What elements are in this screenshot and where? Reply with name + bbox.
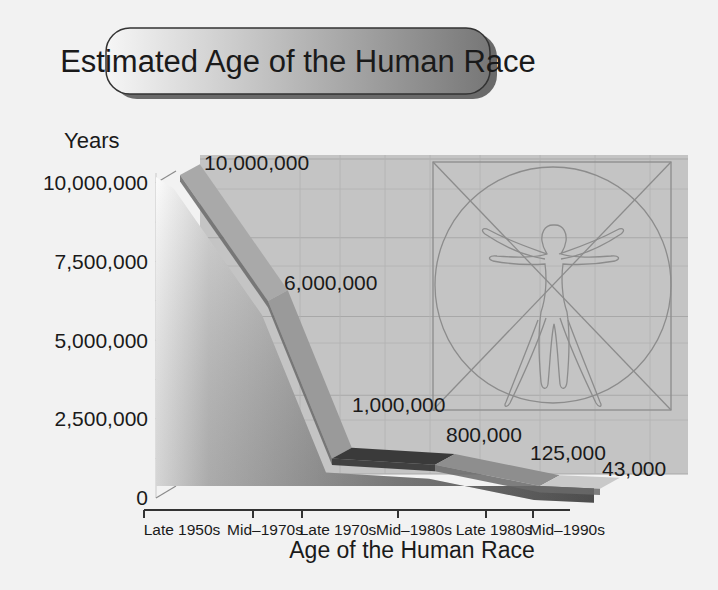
x-axis-label: Age of the Human Race <box>289 537 534 563</box>
y-tick-label: 10,000,000 <box>43 171 148 194</box>
data-label: 6,000,000 <box>284 271 377 294</box>
data-label: 1,000,000 <box>352 393 445 416</box>
chart-title: Estimated Age of the Human Race <box>60 44 536 79</box>
y-tick-label: 5,000,000 <box>55 329 148 352</box>
data-label: 43,000 <box>602 457 666 480</box>
y-axis-label: Years <box>64 128 119 153</box>
y-axis-tick-labels: 02,500,0005,000,0007,500,00010,000,000 <box>43 171 148 509</box>
x-tick-label: Late 1980s <box>456 521 533 538</box>
data-label: 800,000 <box>446 423 522 446</box>
y-tick-label: 7,500,000 <box>55 250 148 273</box>
x-tick-label: Mid–1970s <box>227 521 303 538</box>
y-axis-tick <box>156 486 176 498</box>
chart: Estimated Age of the Human Race Years 02… <box>0 0 718 590</box>
data-label: 125,000 <box>530 441 606 464</box>
x-tick-label: Late 1970s <box>300 521 377 538</box>
x-tick-label: Mid–1990s <box>529 521 605 538</box>
x-axis-ticks <box>144 510 533 518</box>
x-tick-label: Mid–1980s <box>376 521 452 538</box>
x-axis-tick-labels: Late 1950sMid–1970sLate 1970sMid–1980sLa… <box>144 521 606 538</box>
y-tick-label: 0 <box>136 486 148 509</box>
y-tick-label: 2,500,000 <box>55 407 148 430</box>
data-label: 10,000,000 <box>204 151 309 174</box>
x-tick-label: Late 1950s <box>144 521 221 538</box>
title-box: Estimated Age of the Human Race <box>60 28 536 99</box>
